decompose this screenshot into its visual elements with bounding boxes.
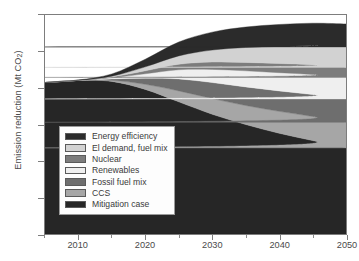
x-axis-tick-label: 2010 xyxy=(67,240,87,250)
legend-label: Renewables xyxy=(92,166,139,175)
x-axis-tick-mark xyxy=(280,235,281,240)
legend-swatch xyxy=(65,155,86,163)
chart-legend: Energy efficiencyEl demand, fuel mixNucl… xyxy=(59,126,175,215)
x-axis-tick-label: 2050 xyxy=(337,240,357,250)
legend-swatch xyxy=(65,201,86,209)
y-axis-title-tail: ) xyxy=(13,50,23,53)
x-axis-tick-mark xyxy=(145,235,146,240)
legend-swatch xyxy=(65,189,86,197)
legend-label: El demand, fuel mix xyxy=(92,144,167,153)
legend-swatch xyxy=(65,133,86,141)
x-axis-minor-tick xyxy=(179,235,180,238)
x-axis-tick-label: 2020 xyxy=(135,240,155,250)
legend-label: Nuclear xyxy=(92,155,122,164)
legend-label: Energy efficiency xyxy=(92,132,157,141)
legend-swatch xyxy=(65,178,86,186)
legend-swatch xyxy=(65,144,86,152)
y-axis-title: Emission reduction (Mt CO2) xyxy=(13,10,23,210)
legend-item: Nuclear xyxy=(65,154,167,165)
x-axis-tick-label: 2030 xyxy=(202,240,222,250)
x-axis-minor-tick xyxy=(111,235,112,238)
y-axis-title-subscript: 2 xyxy=(16,53,23,57)
chart-figure: Emission reduction (Mt CO2) 010002000300… xyxy=(0,0,359,261)
x-axis-tick-label: 2040 xyxy=(269,240,289,250)
legend-item: Fossil fuel mix xyxy=(65,176,167,187)
legend-label: Fossil fuel mix xyxy=(92,178,146,187)
y-axis-title-text: Emission reduction (Mt CO xyxy=(13,57,23,169)
x-axis-minor-tick xyxy=(44,235,45,238)
x-axis-tick-mark xyxy=(78,235,79,240)
legend-swatch xyxy=(65,167,86,175)
legend-item: El demand, fuel mix xyxy=(65,142,167,153)
legend-item: Energy efficiency xyxy=(65,131,167,142)
x-axis-tick-mark xyxy=(212,235,213,240)
x-axis-tick-mark xyxy=(347,235,348,240)
legend-item: Renewables xyxy=(65,165,167,176)
legend-label: Mitigation case xyxy=(92,200,149,209)
x-axis-minor-tick xyxy=(246,235,247,238)
legend-item: CCS xyxy=(65,187,167,198)
legend-label: CCS xyxy=(92,189,110,198)
legend-item: Mitigation case xyxy=(65,199,167,210)
x-axis-minor-tick xyxy=(313,235,314,238)
